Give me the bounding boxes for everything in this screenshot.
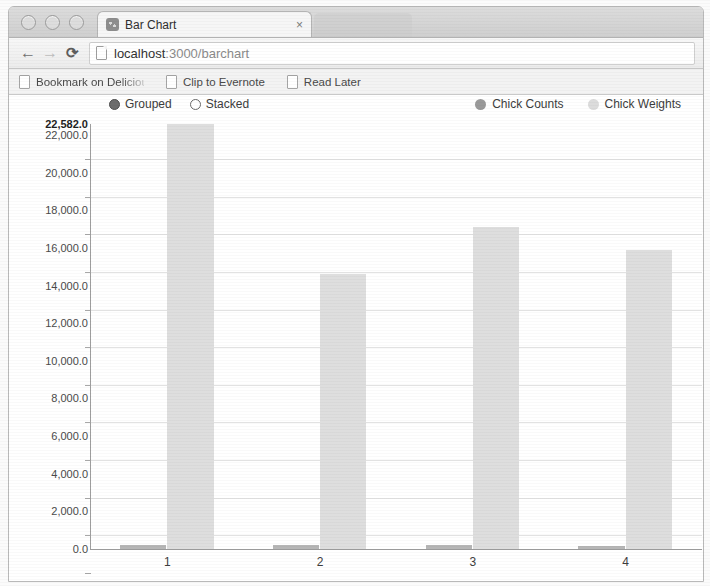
radio-grouped-label: Grouped	[125, 97, 172, 111]
bar[interactable]	[120, 545, 166, 549]
y-axis-tick-label: 22,000.0	[20, 129, 88, 141]
y-axis-tick-label: 6,000.0	[20, 430, 88, 442]
bar[interactable]	[473, 227, 519, 549]
x-axis-tick-label: 1	[164, 555, 171, 569]
toolbar: ← → ⟳ localhost:3000/barchart	[9, 38, 703, 69]
y-axis-tick-label: 4,000.0	[20, 468, 88, 480]
bar[interactable]	[626, 250, 672, 549]
tab-title: Bar Chart	[125, 18, 290, 32]
tab-strip-background	[314, 13, 412, 37]
legend-swatch-icon	[588, 99, 599, 110]
x-axis-line	[90, 549, 702, 550]
radio-dot-icon[interactable]	[190, 99, 201, 110]
radio-stacked-label: Stacked	[206, 97, 249, 111]
layout-radio-group[interactable]: Grouped Stacked	[109, 97, 249, 111]
y-axis-tick-label: 8,000.0	[20, 392, 88, 404]
x-axis-tick-label: 2	[317, 555, 324, 569]
legend-item-chick-counts[interactable]: Chick Counts	[475, 97, 563, 111]
y-axis-tick-label: 14,000.0	[20, 280, 88, 292]
browser-tab[interactable]: Bar Chart ×	[97, 11, 312, 37]
url-host: localhost	[114, 46, 165, 61]
radio-grouped[interactable]: Grouped	[109, 97, 172, 111]
bookmark-label: Bookmark on Delicious	[36, 76, 144, 88]
bar[interactable]	[578, 546, 624, 549]
bookmark-item[interactable]: Read Later	[287, 75, 361, 89]
forward-icon[interactable]: →	[39, 44, 61, 62]
bar[interactable]	[167, 124, 213, 549]
legend-label: Chick Weights	[605, 97, 681, 111]
radio-dot-icon[interactable]	[109, 99, 120, 110]
y-axis-tick-label: 12,000.0	[20, 317, 88, 329]
bar-chart: 0.02,000.04,000.06,000.08,000.010,000.01…	[9, 119, 703, 582]
close-tab-icon[interactable]: ×	[296, 18, 303, 32]
x-axis-tick-label: 3	[470, 555, 477, 569]
reload-icon[interactable]: ⟳	[61, 44, 83, 62]
legend-item-chick-weights[interactable]: Chick Weights	[588, 97, 681, 111]
bars-area	[91, 119, 702, 549]
bookmark-label: Read Later	[304, 76, 361, 88]
browser-window: Bar Chart × ← → ⟳ localhost:3000/barchar…	[8, 6, 704, 582]
url-path: :3000/barchart	[165, 46, 249, 61]
bookmark-item[interactable]: Clip to Evernote	[166, 75, 265, 89]
back-icon[interactable]: ←	[17, 44, 39, 62]
y-axis-tick-label: 20,000.0	[20, 167, 88, 179]
legend-swatch-icon	[475, 99, 486, 110]
bookmark-icon	[166, 75, 177, 89]
bookmark-item[interactable]: Bookmark on Delicious	[19, 75, 144, 89]
y-axis-tick-label: 2,000.0	[20, 505, 88, 517]
radio-stacked[interactable]: Stacked	[190, 97, 249, 111]
y-axis-tick-label: 0.0	[20, 543, 88, 555]
y-axis-tick-label: 18,000.0	[20, 204, 88, 216]
y-axis-max-label: 22,582.0	[20, 118, 88, 130]
bookmarks-bar: Bookmark on Delicious Clip to Evernote R…	[9, 69, 703, 95]
bookmark-label: Clip to Evernote	[183, 76, 265, 88]
window-controls[interactable]	[21, 15, 84, 30]
address-bar[interactable]: localhost:3000/barchart	[89, 42, 695, 65]
tab-strip: Bar Chart ×	[9, 7, 703, 38]
x-axis-tick-label: 4	[622, 555, 629, 569]
url-text: localhost:3000/barchart	[114, 46, 249, 61]
y-axis-tick-labels: 0.02,000.04,000.06,000.08,000.010,000.01…	[14, 119, 88, 582]
chart-controls: Grouped Stacked Chick Counts Chick Weigh	[9, 95, 703, 119]
bar[interactable]	[320, 274, 366, 549]
bookmark-icon	[19, 75, 30, 89]
chart-legend: Chick Counts Chick Weights	[475, 97, 681, 111]
favicon-icon	[106, 18, 119, 31]
y-axis-tick-label: 16,000.0	[20, 242, 88, 254]
minimize-window-button[interactable]	[45, 15, 60, 30]
bookmark-icon	[287, 75, 298, 89]
legend-label: Chick Counts	[492, 97, 563, 111]
page-viewport: Grouped Stacked Chick Counts Chick Weigh	[9, 95, 703, 582]
page-info-icon[interactable]	[96, 46, 107, 60]
close-window-button[interactable]	[21, 15, 36, 30]
bar[interactable]	[273, 545, 319, 549]
screenshot-root: Bar Chart × ← → ⟳ localhost:3000/barchar…	[0, 0, 710, 586]
y-axis-tick-label: 10,000.0	[20, 355, 88, 367]
zoom-window-button[interactable]	[69, 15, 84, 30]
bar[interactable]	[426, 545, 472, 549]
y-axis-tick-mark	[85, 573, 91, 574]
